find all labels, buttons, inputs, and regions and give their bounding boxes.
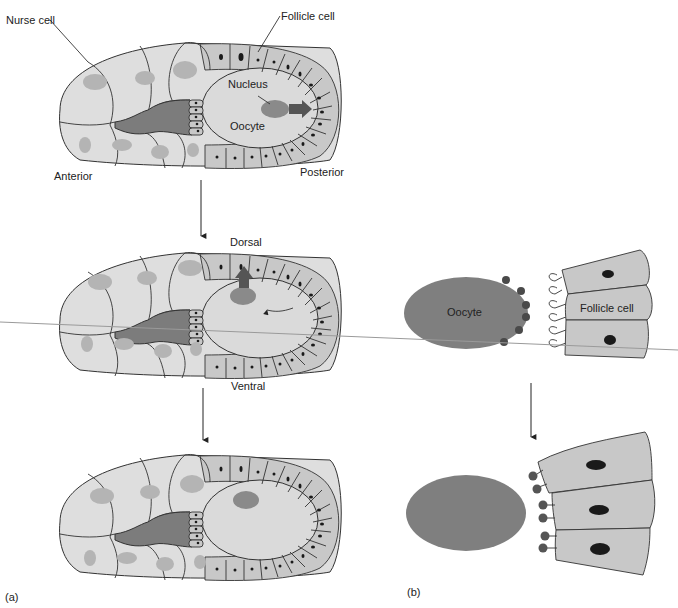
label-nurse-cell: Nurse cell bbox=[6, 14, 55, 26]
label-oocyte-b: Oocyte bbox=[447, 306, 482, 318]
panel-a-label: (a) bbox=[5, 591, 18, 603]
label-ventral: Ventral bbox=[231, 380, 265, 392]
diagram-canvas: Nurse cell Follicle cell Nucleus Oocyte … bbox=[0, 0, 678, 608]
label-follicle-cell-b: Follicle cell bbox=[580, 302, 634, 314]
label-anterior: Anterior bbox=[54, 170, 93, 182]
oocyte-nucleus bbox=[261, 100, 289, 118]
egg-chamber-stage-3 bbox=[60, 454, 342, 580]
label-posterior: Posterior bbox=[300, 166, 344, 178]
panel-b-top: Oocyte Follicle cell bbox=[404, 250, 652, 358]
label-follicle-cell: Follicle cell bbox=[281, 10, 335, 22]
oocyte-b-bottom bbox=[406, 475, 526, 551]
label-nucleus: Nucleus bbox=[228, 78, 268, 90]
label-dorsal: Dorsal bbox=[230, 236, 262, 248]
panel-b-label: (b) bbox=[407, 586, 420, 598]
label-oocyte: Oocyte bbox=[230, 120, 265, 132]
panel-b-bottom bbox=[406, 432, 655, 575]
egg-chamber-stage-2: Dorsal Ventral bbox=[60, 236, 342, 392]
egg-chamber-stage-1: Nurse cell Follicle cell Nucleus Oocyte … bbox=[6, 10, 344, 182]
